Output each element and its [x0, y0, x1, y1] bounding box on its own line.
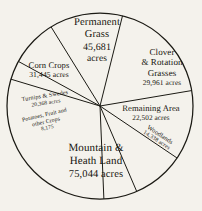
slice-label-mountain-heath-line2: Heath Land	[46, 155, 146, 168]
slice-label-clover-line1: Clover	[126, 47, 198, 57]
slice-label-permanent-grass-line2: Grass	[56, 29, 138, 41]
slice-label-clover-rotation-grasses: Clover & Rotation Grasses 29,961 acres	[126, 47, 198, 88]
slice-label-mountain-heath-land: Mountain & Heath Land 75,044 acres	[46, 142, 146, 181]
slice-value-corn-crops: 31,445 acres	[13, 71, 85, 80]
slice-value-remaining-area: 22,502 acres	[110, 114, 192, 122]
slice-label-permanent-grass-line1: Permanent	[56, 17, 138, 29]
slice-label-remaining-area-line1: Remaining Area	[110, 104, 192, 114]
slice-label-remaining-area: Remaining Area 22,502 acres	[110, 104, 192, 122]
pie-chart: Permanent Grass 45,681 acres Clover & Ro…	[0, 0, 202, 211]
slice-value-mountain-heath: 75,044 acres	[46, 169, 146, 181]
slice-value-clover: 29,961 acres	[126, 79, 198, 88]
slice-label-mountain-heath-line1: Mountain &	[46, 142, 146, 155]
slice-label-corn-crops: Corn Crops 31,445 acres	[13, 61, 85, 80]
slice-label-clover-line3: Grasses	[126, 68, 198, 78]
slice-label-clover-line2: & Rotation	[126, 57, 198, 67]
slice-label-corn-crops-line1: Corn Crops	[13, 61, 85, 71]
